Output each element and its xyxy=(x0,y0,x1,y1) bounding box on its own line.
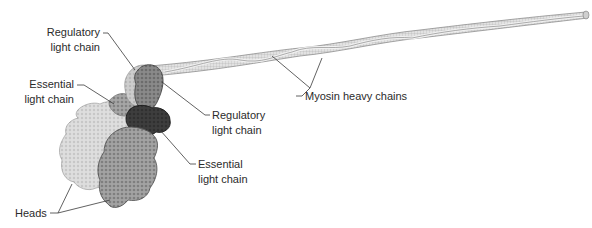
leader-ess-lc-right xyxy=(160,130,196,164)
label-line1: Regulatory xyxy=(212,108,265,123)
leader-heavy-chains-2 xyxy=(310,58,322,88)
coiled-coil-tail xyxy=(150,11,589,76)
label-line1: Regulatory xyxy=(40,25,100,40)
leader-reg-lc-right xyxy=(162,82,210,115)
label-heads: Heads xyxy=(15,206,47,221)
label-line1: Essential xyxy=(18,77,74,92)
label-text: Myosin heavy chains xyxy=(305,90,407,102)
label-text: Heads xyxy=(15,207,47,219)
leader-reg-lc-top xyxy=(103,33,135,70)
label-line2: light chain xyxy=(198,172,248,187)
label-regulatory-light-chain-right: Regulatory light chain xyxy=(212,108,265,138)
regulatory-light-chain-front xyxy=(135,65,163,111)
label-myosin-heavy-chains: Myosin heavy chains xyxy=(305,89,407,104)
leader-heads xyxy=(50,184,72,213)
label-line2: light chain xyxy=(40,40,100,55)
label-essential-light-chain-left: Essential light chain xyxy=(18,77,74,107)
label-line1: Essential xyxy=(198,157,248,172)
leader-heads-2 xyxy=(58,200,110,213)
label-line2: light chain xyxy=(18,92,74,107)
label-regulatory-light-chain-top: Regulatory light chain xyxy=(40,25,100,55)
myosin-diagram: Regulatory light chain Essential light c… xyxy=(0,0,592,228)
label-essential-light-chain-right: Essential light chain xyxy=(198,157,248,187)
label-line2: light chain xyxy=(212,123,265,138)
leader-ess-lc-left xyxy=(77,85,114,104)
